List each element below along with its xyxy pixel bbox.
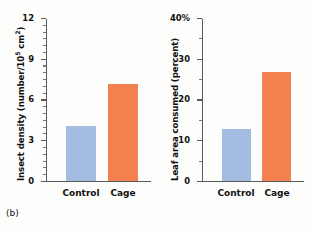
y-tick-minor <box>43 174 46 175</box>
y-tick-label: 12 <box>22 13 34 23</box>
y-tick-minor <box>43 133 46 134</box>
y-tick-major: 30 <box>197 59 202 60</box>
y-tick-minor <box>43 113 46 114</box>
y-axis-title-left-text: Insect density (number/10 <box>16 56 26 181</box>
y-tick-minor <box>43 38 46 39</box>
y-tick-major: 20 <box>197 99 202 100</box>
bar-cage-insect-density <box>108 84 138 181</box>
x-label-cage-left: Cage <box>110 188 135 198</box>
y-tick-minor <box>43 93 46 94</box>
y-tick-major: 6 <box>41 99 46 100</box>
panel-label: (b) <box>6 208 19 218</box>
bars-left <box>47 19 149 181</box>
y-tick-minor <box>199 38 202 39</box>
y-tick-major: 9 <box>41 59 46 60</box>
y-axis-title-left-unit: cm <box>16 35 26 52</box>
y-tick-minor <box>43 52 46 53</box>
bars-right <box>203 19 302 181</box>
bar-control-leaf-area <box>222 129 251 181</box>
y-tick-label: 9 <box>28 54 34 64</box>
y-tick-label: 0 <box>28 176 34 186</box>
y-tick-minor <box>43 45 46 46</box>
x-label-control-right: Control <box>217 188 254 198</box>
chart-leaf-area-consumed: Leaf area consumed (percent) 010203040% … <box>158 0 311 200</box>
y-axis-title-left-exponent: 5 <box>14 52 21 56</box>
x-axis-labels-left: Control Cage <box>0 188 158 202</box>
y-tick-major: 0 <box>41 181 46 182</box>
y-tick-label: 30 <box>178 54 190 64</box>
x-label-cage-right: Cage <box>264 188 289 198</box>
y-tick-minor <box>43 154 46 155</box>
y-tick-minor <box>43 79 46 80</box>
y-tick-major: 12 <box>41 18 46 19</box>
y-tick-minor <box>43 65 46 66</box>
y-tick-minor <box>43 147 46 148</box>
plot-area-right: 010203040% <box>202 19 302 182</box>
y-tick-label: 3 <box>28 135 34 145</box>
y-tick-label: 20 <box>178 94 190 104</box>
y-axis-title-left-unit-exponent: 2 <box>14 31 21 35</box>
y-tick-minor <box>43 72 46 73</box>
x-label-control-left: Control <box>62 188 99 198</box>
y-tick-major: 40% <box>197 18 202 19</box>
y-tick-minor <box>43 32 46 33</box>
y-tick-minor <box>43 120 46 121</box>
y-tick-minor <box>43 127 46 128</box>
y-tick-minor <box>199 120 202 121</box>
plot-area-left: 036912 <box>46 19 149 182</box>
y-tick-minor <box>199 79 202 80</box>
y-axis-title-left: Insect density (number/105 cm2) <box>14 27 26 181</box>
y-tick-minor <box>43 25 46 26</box>
y-tick-minor <box>43 161 46 162</box>
figure-panel-b: Insect density (number/105 cm2) 036912 C… <box>0 0 311 230</box>
y-tick-label: 40% <box>170 13 190 23</box>
y-tick-label: 6 <box>28 94 34 104</box>
y-tick-major: 0 <box>197 181 202 182</box>
y-tick-label: 0 <box>184 176 190 186</box>
bar-cage-leaf-area <box>262 72 291 181</box>
y-tick-label: 10 <box>178 135 190 145</box>
y-tick-minor <box>43 86 46 87</box>
y-tick-major: 3 <box>41 140 46 141</box>
chart-insect-density: Insect density (number/105 cm2) 036912 C… <box>0 0 158 200</box>
y-axis-title-left-paren: ) <box>16 27 26 31</box>
y-tick-minor <box>199 161 202 162</box>
y-tick-major: 10 <box>197 140 202 141</box>
x-axis-labels-right: Control Cage <box>158 188 311 202</box>
bar-control-insect-density <box>66 126 96 181</box>
y-tick-minor <box>43 106 46 107</box>
y-tick-minor <box>43 167 46 168</box>
